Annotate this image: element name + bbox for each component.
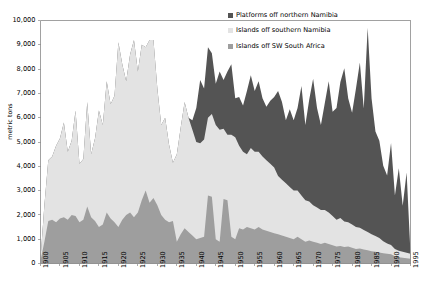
x-tick-label: 1910 xyxy=(82,251,89,268)
y-tick-label: 0 xyxy=(0,260,36,267)
y-tick-label: 4,000 xyxy=(0,163,36,170)
x-tick-label: 1980 xyxy=(355,251,362,268)
stacked-area-chart: metric tons 01,0002,0003,0004,0005,0006,… xyxy=(0,0,424,296)
legend-label: Islands off SW South Africa xyxy=(236,43,325,50)
y-tick-label: 6,000 xyxy=(0,114,36,121)
series-areas xyxy=(41,28,411,264)
y-tick-label: 1,000 xyxy=(0,236,36,243)
x-tick-label: 1925 xyxy=(140,251,147,268)
x-tick-label: 1950 xyxy=(238,251,245,268)
x-tick-label: 1960 xyxy=(277,251,284,268)
x-tick-label: 1985 xyxy=(374,251,381,268)
x-tick-label: 1935 xyxy=(179,251,186,268)
x-tick-label: 1945 xyxy=(218,251,225,268)
x-tick-label: 1915 xyxy=(102,251,109,268)
legend-item: Platforms off northern Namibia xyxy=(228,11,338,19)
legend-label: Platforms off northern Namibia xyxy=(236,12,338,19)
x-tick-label: 1965 xyxy=(296,251,303,268)
y-tick-label: 3,000 xyxy=(0,187,36,194)
y-tick-label: 10,000 xyxy=(0,17,36,24)
chart-legend: Platforms off northern NamibiaIslands of… xyxy=(228,11,338,50)
x-tick-label: 1990 xyxy=(394,251,401,268)
x-tick-label: 1995 xyxy=(413,251,420,268)
legend-item: Islands off southern Namibia xyxy=(228,27,338,35)
x-tick-label: 1940 xyxy=(199,251,206,268)
y-tick-label: 7,000 xyxy=(0,90,36,97)
legend-label: Islands off southern Namibia xyxy=(236,27,330,34)
x-tick-label: 1930 xyxy=(160,251,167,268)
x-tick-label: 1970 xyxy=(316,251,323,268)
legend-swatch-icon xyxy=(228,44,233,49)
y-tick-label: 5,000 xyxy=(0,139,36,146)
legend-swatch-icon xyxy=(228,13,233,18)
legend-swatch-icon xyxy=(228,28,233,33)
x-tick-label: 1955 xyxy=(257,251,264,268)
y-tick-label: 8,000 xyxy=(0,66,36,73)
x-tick-label: 1900 xyxy=(43,251,50,268)
legend-item: Islands off SW South Africa xyxy=(228,42,338,50)
x-tick-label: 1975 xyxy=(335,251,342,268)
y-tick-label: 2,000 xyxy=(0,212,36,219)
x-tick-label: 1905 xyxy=(63,251,70,268)
x-tick-label: 1920 xyxy=(121,251,128,268)
y-tick-label: 9,000 xyxy=(0,41,36,48)
